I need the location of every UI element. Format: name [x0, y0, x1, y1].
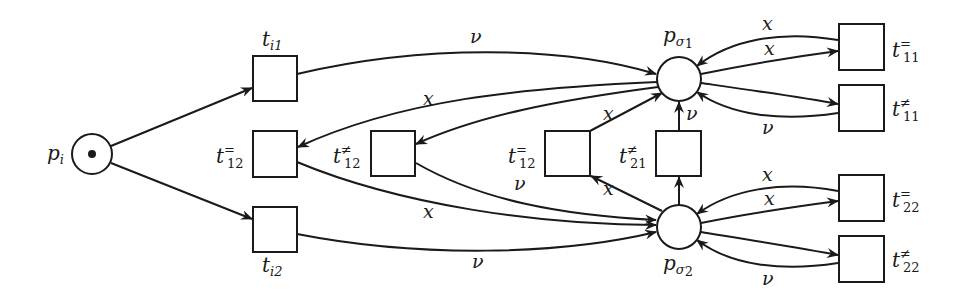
label-t-i2: ti2: [262, 253, 282, 279]
petri-net-diagram: pi pσ1 pσ2 ti1 t=12 ti2 t≠12 t=12 t≠21 t…: [0, 0, 966, 301]
label-t-11-eq: t=11: [892, 36, 920, 65]
arc-psigma1-to-t12neq: [416, 87, 658, 144]
arc-label-psigma2-t22eq: x: [764, 187, 775, 209]
arc-label-ti2-psigma2: ν: [472, 250, 484, 272]
label-t-12-neq: t≠12: [333, 142, 361, 171]
label-t-12-eq-mid: t=12: [508, 142, 536, 171]
arc-label-t12eq-mid-psigma1: x: [603, 102, 614, 124]
transition-t-22-eq: [839, 175, 884, 221]
transition-t-11-neq: [839, 85, 884, 131]
arc-label-t21neq-psigma1: ν: [686, 102, 698, 124]
arc-t11neq-to-psigma1: [697, 92, 838, 117]
arc-t12neq-to-psigma2: [416, 163, 656, 220]
arc-label-psigma2-t12eq-mid: x: [603, 177, 614, 199]
transition-t-12-eq-left: [253, 131, 297, 177]
arc-ti1-to-psigma1: [297, 52, 656, 74]
transition-t-i2: [253, 207, 297, 252]
label-p-sigma2: pσ2: [663, 251, 693, 279]
label-t-11-neq: t≠11: [892, 95, 920, 124]
arc-psigma2-to-t12eq-mid: [591, 176, 662, 211]
transition-t-11-eq: [839, 24, 884, 70]
place-p-sigma2: [657, 205, 701, 249]
arc-label-psigma1-t12eq-left: x: [423, 87, 434, 109]
place-p-i: [72, 134, 112, 174]
arc-psigma1-to-t11neq: [701, 83, 838, 104]
transition-t-12-neq: [371, 131, 415, 176]
transition-t-i1: [253, 56, 297, 101]
arc-label-psigma1-t11eq: x: [764, 37, 775, 59]
arc-psigma2-to-t22neq: [701, 232, 838, 255]
label-p-sigma1: pσ1: [663, 23, 693, 51]
label-p-i: pi: [47, 141, 64, 167]
arc-ti2-to-psigma2: [297, 232, 656, 251]
transition-t-21-neq: [656, 131, 701, 176]
arc-label-t22eq-psigma2: x: [762, 163, 773, 185]
label-t-22-eq: t=22: [892, 186, 920, 215]
arc-label-ti1-psigma1: ν: [470, 25, 482, 47]
arc-t22neq-to-psigma2: [697, 240, 838, 267]
arc-label-t11neq-psigma1: ν: [762, 116, 774, 138]
arc-t12eq-mid-to-psigma1: [590, 93, 662, 131]
label-t-21-neq: t≠21: [619, 142, 647, 171]
place-p-sigma1: [657, 57, 701, 101]
token: [88, 150, 96, 158]
arc-pi-to-ti2: [111, 163, 252, 219]
arc-label-t11eq-psigma1: x: [762, 12, 773, 34]
transition-t-12-eq-mid: [545, 131, 590, 176]
arc-label-t12neq-psigma2: ν: [514, 172, 526, 194]
label-t-22-neq: t≠22: [892, 246, 920, 275]
arc-label-t12eq-left-psigma2: x: [423, 200, 434, 222]
arc-pi-to-ti1: [111, 88, 252, 146]
label-t-12-eq-left: t=12: [216, 142, 244, 171]
label-t-i1: ti1: [262, 27, 282, 53]
arc-label-t22neq-psigma2: ν: [762, 267, 774, 289]
transition-t-22-neq: [839, 236, 884, 282]
